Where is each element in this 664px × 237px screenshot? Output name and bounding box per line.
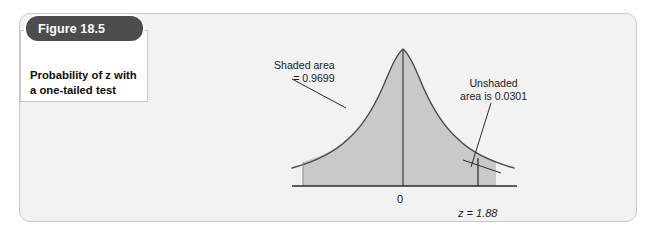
normal-distribution-chart: [170, 27, 657, 236]
shaded-area-line1: Shaded area: [274, 59, 335, 72]
axis-tick-label-zero: 0: [397, 193, 403, 206]
unshaded-tail-fill: [496, 161, 517, 186]
z-value-label: z = 1.88: [458, 207, 497, 220]
shaded-area-annotation: Shaded area = 0.9699: [274, 59, 335, 85]
shaded-area-line2: = 0.9699: [274, 72, 335, 85]
figure-caption-line1: Probability of z with: [30, 68, 150, 83]
figure-number-pill: Figure 18.5: [24, 14, 145, 43]
figure-number-text: Figure 18.5: [26, 22, 105, 36]
figure-caption-block: Probability of z with a one-tailed test …: [20, 13, 149, 103]
figure-caption-line2: a one-tailed test: [30, 83, 150, 98]
unshaded-area-line1: Unshaded: [460, 77, 527, 90]
unshaded-area-annotation: Unshaded area is 0.0301: [460, 77, 527, 103]
chart-area: Shaded area = 0.9699 Unshaded area is 0.…: [170, 27, 657, 236]
figure-caption-text: Probability of z with a one-tailed test: [30, 68, 150, 98]
unshaded-area-line2: area is 0.0301: [460, 90, 527, 103]
